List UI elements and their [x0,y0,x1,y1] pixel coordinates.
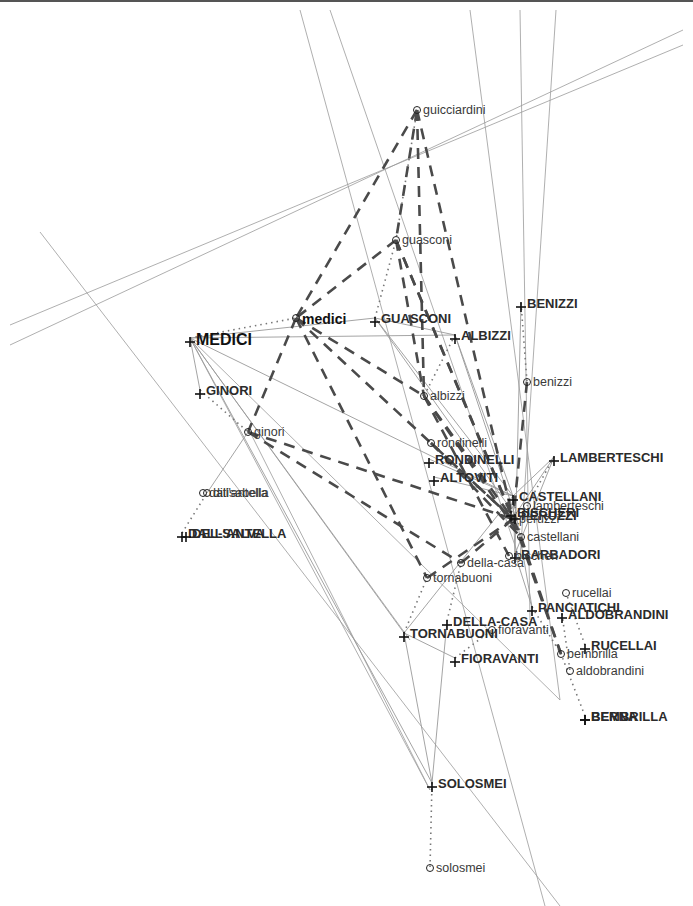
edge-dotted [404,578,427,633]
edge-solid [207,432,248,493]
background-ray-3 [300,10,545,906]
background-ray-5 [520,10,556,560]
edge-dashed [296,110,417,318]
graph-edges-layer [0,0,693,906]
edge-dashed [417,110,513,519]
edge-dashed [513,382,527,519]
background-ray-7 [330,10,520,560]
edge-dashed [248,318,296,432]
edge-dotted [200,390,248,432]
background-ray-9 [190,338,430,790]
edge-dotted [182,493,207,533]
edge-dotted [430,783,432,868]
background-ray-6 [470,10,560,700]
edge-dotted [527,457,554,506]
edge-dotted [561,654,585,716]
edge-solid [404,633,455,658]
edge-dashed [461,519,513,563]
edge-dotted [562,614,570,671]
edge-solid [404,633,432,783]
network-graph-canvas: MEDICImediciGINORIginoriGUASCONIguasconi… [0,0,693,906]
edge-solid [190,335,455,338]
edge-solid [190,338,404,633]
background-ray-1 [10,45,683,325]
edge-dotted [521,303,527,382]
edge-dotted [455,630,492,658]
edge-solid [432,621,447,783]
background-ray-11 [250,432,430,790]
edge-solid [190,338,432,783]
edge-dotted [375,240,396,318]
edge-dotted [566,593,585,645]
background-ray-0 [10,30,683,345]
edge-dashed [427,519,513,578]
edge-solid [375,318,455,335]
edge-solid [515,303,521,554]
edge-solid [375,318,515,515]
background-ray-2 [40,232,560,906]
